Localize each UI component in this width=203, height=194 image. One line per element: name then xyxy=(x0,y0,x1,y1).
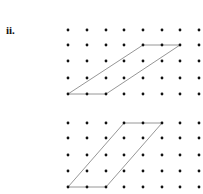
grid-dot xyxy=(198,77,201,80)
top-dot-grid xyxy=(67,29,201,96)
grid-dot xyxy=(67,137,70,140)
grid-dot xyxy=(67,77,70,80)
grid-dot xyxy=(142,186,145,189)
grid-dot xyxy=(179,186,182,189)
grid-dot xyxy=(142,170,145,173)
grid-dot xyxy=(161,77,164,80)
grid-dot xyxy=(142,93,145,96)
grid-dot xyxy=(142,44,145,47)
grid-dot xyxy=(67,186,70,189)
grid-dot xyxy=(179,170,182,173)
grid-dot xyxy=(198,137,201,140)
grid-dot xyxy=(105,60,108,63)
grid-dot xyxy=(198,29,201,32)
grid-dot xyxy=(179,93,182,96)
grid-dot xyxy=(67,29,70,32)
grid-dot xyxy=(86,154,89,157)
grid-dot xyxy=(105,122,108,125)
grid-dot xyxy=(179,154,182,157)
grid-dot xyxy=(161,60,164,63)
grid-dot xyxy=(198,122,201,125)
grid-dot xyxy=(67,170,70,173)
grid-dot xyxy=(105,44,108,47)
grid-dot xyxy=(179,29,182,32)
grid-dot xyxy=(86,122,89,125)
grid-dot xyxy=(142,29,145,32)
grid-dot xyxy=(142,77,145,80)
grid-dot xyxy=(179,122,182,125)
grid-dot xyxy=(105,186,108,189)
parallelogram xyxy=(68,45,180,94)
grid-dot xyxy=(123,170,126,173)
grid-dot xyxy=(67,154,70,157)
grid-dot xyxy=(142,137,145,140)
grid-dot xyxy=(179,137,182,140)
grid-dot xyxy=(179,60,182,63)
grid-dot xyxy=(161,29,164,32)
grid-dot xyxy=(86,44,89,47)
grid-dot xyxy=(198,154,201,157)
grid-dot xyxy=(67,93,70,96)
grid-dot xyxy=(123,186,126,189)
grid-dot xyxy=(123,122,126,125)
grid-dot xyxy=(142,154,145,157)
grid-dot xyxy=(123,77,126,80)
parallelogram xyxy=(68,123,162,187)
grid-dot xyxy=(142,60,145,63)
grid-dot xyxy=(105,93,108,96)
grid-dot xyxy=(86,93,89,96)
grid-dot xyxy=(123,137,126,140)
grid-dot xyxy=(198,60,201,63)
grid-dot xyxy=(161,186,164,189)
grid-dot xyxy=(161,170,164,173)
grid-dot xyxy=(105,154,108,157)
dot-grid-diagrams xyxy=(0,0,203,194)
grid-dot xyxy=(86,186,89,189)
grid-dot xyxy=(161,93,164,96)
grid-dot xyxy=(123,154,126,157)
grid-dot xyxy=(86,170,89,173)
grid-dot xyxy=(105,137,108,140)
grid-dot xyxy=(86,29,89,32)
grid-dot xyxy=(198,170,201,173)
grid-dot xyxy=(198,186,201,189)
grid-dot xyxy=(67,44,70,47)
bottom-dot-grid xyxy=(67,122,201,189)
grid-dot xyxy=(105,170,108,173)
grid-dot xyxy=(142,122,145,125)
grid-dot xyxy=(161,122,164,125)
grid-dot xyxy=(67,60,70,63)
grid-dot xyxy=(67,122,70,125)
grid-dot xyxy=(161,44,164,47)
grid-dot xyxy=(123,44,126,47)
grid-dot xyxy=(179,44,182,47)
grid-dot xyxy=(86,77,89,80)
grid-dot xyxy=(198,44,201,47)
grid-dot xyxy=(123,60,126,63)
grid-dot xyxy=(161,154,164,157)
grid-dot xyxy=(179,77,182,80)
grid-dot xyxy=(105,29,108,32)
grid-dot xyxy=(105,77,108,80)
grid-dot xyxy=(86,60,89,63)
grid-dot xyxy=(198,93,201,96)
grid-dot xyxy=(123,93,126,96)
grid-dot xyxy=(161,137,164,140)
grid-dot xyxy=(123,29,126,32)
grid-dot xyxy=(86,137,89,140)
